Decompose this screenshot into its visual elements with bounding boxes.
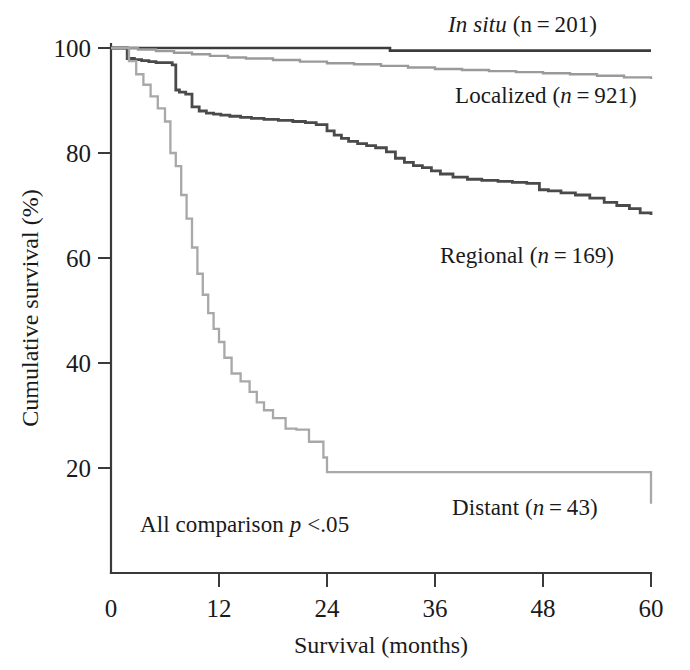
- survival-curves-group: [111, 48, 651, 504]
- x-tick-label-12: 12: [207, 595, 232, 622]
- x-tick-label-0: 0: [105, 595, 118, 622]
- series-label-regional: Regional (n = 169): [440, 243, 614, 269]
- series-label-distant: Distant (n = 43): [452, 495, 598, 521]
- y-axis-tick-labels: 20406080100: [54, 35, 92, 482]
- x-tick-label-60: 60: [639, 595, 664, 622]
- curve-distant: [111, 48, 651, 504]
- regional-text: Regional (: [440, 243, 537, 268]
- series-label-localized: Localized (n = 921): [455, 83, 637, 109]
- p-value-annotation: All comparison p <.05: [140, 512, 349, 538]
- y-tick-label-100: 100: [54, 35, 92, 62]
- x-axis-ticks: [219, 573, 651, 587]
- distant-text: Distant (: [452, 495, 533, 520]
- p-value-italic: p: [290, 512, 302, 537]
- x-tick-label-36: 36: [423, 595, 448, 622]
- p-value-prefix: All comparison: [140, 512, 290, 537]
- y-tick-label-60: 60: [66, 245, 91, 272]
- x-axis-tick-labels: 01224364860: [105, 595, 664, 622]
- curve-in-situ: [111, 48, 651, 51]
- x-tick-label-48: 48: [531, 595, 556, 622]
- p-value-suffix: <.05: [301, 512, 349, 537]
- y-tick-label-80: 80: [66, 140, 91, 167]
- localized-count-text: = 921): [572, 83, 637, 108]
- localized-text: Localized (: [455, 83, 560, 108]
- y-axis-title: Cumulative survival (%): [17, 189, 43, 426]
- y-axis-ticks: [98, 48, 111, 468]
- regional-n-italic: n: [537, 243, 549, 268]
- survival-chart-figure: 20406080100 01224364860 Survival (months…: [0, 0, 690, 670]
- curve-localized: [111, 48, 651, 79]
- y-tick-label-40: 40: [66, 350, 91, 377]
- y-tick-label-20: 20: [66, 455, 91, 482]
- regional-count-text: = 169): [549, 243, 614, 268]
- x-axis-title: Survival (months): [294, 632, 468, 658]
- series-label-in-situ: In situ (n = 201): [448, 12, 597, 38]
- distant-count-text: = 43): [544, 495, 597, 520]
- in-situ-italic-text: In situ: [448, 12, 507, 37]
- in-situ-count-text: (n = 201): [507, 12, 597, 37]
- distant-n-italic: n: [533, 495, 545, 520]
- x-tick-label-24: 24: [315, 595, 341, 622]
- localized-n-italic: n: [560, 83, 572, 108]
